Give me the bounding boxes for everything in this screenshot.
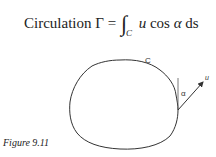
angle-label-alpha: α	[181, 89, 186, 98]
curve-label-c: C	[145, 56, 151, 65]
vector-label-u: u	[205, 74, 209, 81]
circulation-diagram: C α u	[0, 0, 216, 157]
figure-caption: Figure 9.11	[3, 137, 49, 148]
closed-curve-c	[70, 60, 178, 149]
